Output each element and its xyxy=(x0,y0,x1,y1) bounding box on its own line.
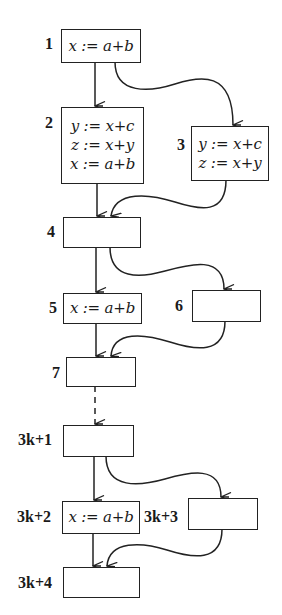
statement: x := a+b xyxy=(68,37,133,56)
block-label-4: 4 xyxy=(47,223,55,241)
statement: x := a+b xyxy=(70,299,135,318)
edge-3k1-to-3k3 xyxy=(106,456,221,497)
block-3k4 xyxy=(63,567,140,598)
block-label-7: 7 xyxy=(52,364,60,382)
block-3k2: x := a+b xyxy=(62,501,140,534)
block-7 xyxy=(66,357,136,387)
block-6 xyxy=(192,290,261,322)
statement: y := x+c xyxy=(71,117,134,136)
block-1: x := a+b xyxy=(61,29,141,63)
block-label-3: 3 xyxy=(177,136,185,154)
block-2: y := x+c z := x+y x := a+b xyxy=(61,107,144,184)
control-flow-graph: 1 x := a+b 2 y := x+c z := x+y x := a+b … xyxy=(0,0,282,615)
block-label-3k3: 3k+3 xyxy=(144,508,178,526)
block-label-3k2: 3k+2 xyxy=(17,508,51,526)
edge-3-to-4 xyxy=(111,180,226,216)
block-label-2: 2 xyxy=(45,114,53,132)
edge-3k3-to-3k4 xyxy=(107,529,222,566)
block-label-3k1: 3k+1 xyxy=(18,431,52,449)
block-3k3 xyxy=(188,498,258,530)
statement: z := x+y xyxy=(71,136,134,155)
edge-6-to-7 xyxy=(111,321,225,356)
block-5: x := a+b xyxy=(63,293,142,324)
block-label-5: 5 xyxy=(49,299,57,317)
statement: x := a+b xyxy=(70,155,135,174)
block-3k1 xyxy=(63,425,134,457)
edge-4-to-6 xyxy=(110,247,224,289)
statement: y := x+c xyxy=(198,135,261,154)
block-3: y := x+c z := x+y xyxy=(191,126,269,181)
block-label-1: 1 xyxy=(45,35,53,53)
block-4 xyxy=(63,217,141,248)
block-label-6: 6 xyxy=(175,297,183,315)
statement: x := a+b xyxy=(68,508,133,527)
block-label-3k4: 3k+4 xyxy=(18,574,52,592)
statement: z := x+y xyxy=(199,154,262,173)
